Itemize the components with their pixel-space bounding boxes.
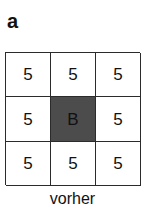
grid-cell: 5 — [96, 53, 141, 97]
grid-cell: 5 — [6, 97, 51, 142]
grid-cell: 5 — [51, 142, 96, 186]
figure-caption: vorher — [5, 190, 140, 208]
value-grid: 5 5 5 5 B 5 5 5 5 — [5, 52, 140, 185]
panel-label: a — [7, 10, 18, 32]
grid-cell: 5 — [6, 53, 51, 97]
grid-cell: 5 — [96, 97, 141, 142]
grid-cell: 5 — [51, 53, 96, 97]
grid-cell: 5 — [96, 142, 141, 186]
grid-cell: 5 — [6, 142, 51, 186]
figure-panel: a 5 5 5 5 B 5 5 5 5 vorher — [0, 0, 152, 217]
grid-cell-center-shaded: B — [51, 97, 96, 142]
